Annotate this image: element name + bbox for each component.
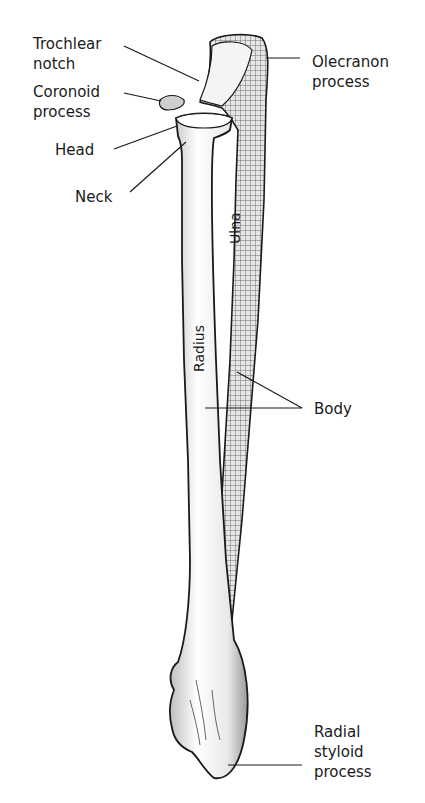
label-body: Body: [314, 399, 352, 419]
leader-head: [114, 126, 177, 149]
label-ulna: Ulna: [227, 212, 243, 244]
label-olecranon-process: Olecranon process: [312, 52, 389, 92]
leader-trochlear-notch: [124, 46, 199, 81]
bone-diagram: Trochlear notch Coronoid process Head Ne…: [0, 0, 425, 803]
label-head: Head: [55, 140, 94, 160]
label-trochlear-notch: Trochlear notch: [33, 34, 101, 74]
leader-neck: [130, 142, 186, 192]
label-radius: Radius: [191, 325, 207, 372]
label-neck: Neck: [75, 187, 112, 207]
leader-coronoid-process: [124, 93, 161, 101]
label-coronoid-process: Coronoid process: [33, 82, 100, 122]
label-radial-styloid-process: Radial styloid process: [314, 722, 372, 782]
